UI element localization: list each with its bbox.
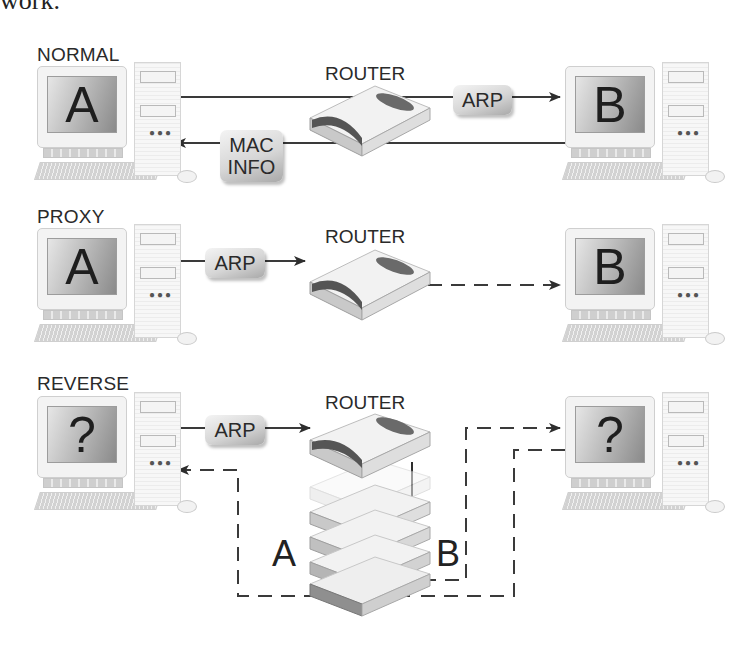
screen-label: B (575, 76, 645, 133)
monitor-base (43, 478, 123, 488)
monitor: B (565, 66, 655, 148)
computer-b-proxy: B ●●● (565, 224, 725, 349)
tower-icon: ●●● (662, 62, 709, 176)
screen-label: A (47, 238, 117, 295)
screen-label: A (47, 76, 117, 133)
router-icon-normal (300, 78, 435, 158)
monitor-base (43, 148, 123, 158)
tower-icon: ●●● (662, 224, 709, 338)
path-label-b: B (436, 533, 460, 575)
mac-info-pill: MAC INFO (220, 130, 283, 182)
router-icon-proxy (300, 242, 435, 322)
computer-a-proxy: A ●●● (37, 224, 197, 349)
mouse-icon (177, 332, 197, 345)
monitor: ? (37, 396, 127, 478)
router-stack-icon (300, 412, 440, 617)
tower-icon: ●●● (134, 392, 181, 506)
monitor-base (571, 310, 651, 320)
arp-pill-proxy: ARP (205, 248, 265, 278)
mouse-icon (705, 500, 725, 513)
computer-unknown-right: ? ●●● (565, 392, 725, 517)
computer-a-normal: A ●●● (37, 62, 197, 187)
mac-info-line1: MAC (220, 134, 283, 156)
arp-request-pill-normal: ARP (453, 85, 512, 115)
monitor: A (37, 228, 127, 310)
screen-label: B (575, 238, 645, 295)
mouse-icon (177, 500, 197, 513)
computer-unknown-left: ? ●●● (37, 392, 197, 517)
mouse-icon (705, 170, 725, 183)
tower-icon: ●●● (662, 392, 709, 506)
path-label-a: A (272, 533, 296, 575)
tower-icon: ●●● (134, 62, 181, 176)
monitor: A (37, 66, 127, 148)
mouse-icon (705, 332, 725, 345)
monitor-base (571, 478, 651, 488)
computer-b-normal: B ●●● (565, 62, 725, 187)
monitor-base (571, 148, 651, 158)
mac-info-line2: INFO (220, 156, 283, 178)
screen-label: ? (575, 406, 645, 463)
router-label-reverse: ROUTER (325, 392, 405, 414)
screen-label: ? (47, 406, 117, 463)
arp-pill-reverse: ARP (205, 415, 265, 445)
monitor-base (43, 310, 123, 320)
monitor: ? (565, 396, 655, 478)
tower-icon: ●●● (134, 224, 181, 338)
mouse-icon (177, 170, 197, 183)
monitor: B (565, 228, 655, 310)
